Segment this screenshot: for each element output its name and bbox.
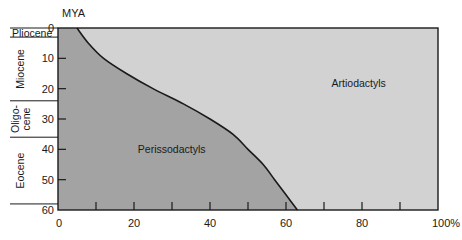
x-tick-label: 60 <box>280 217 292 229</box>
y-tick-label: 30 <box>42 113 54 125</box>
x-tick-label: 80 <box>356 217 368 229</box>
x-tick-label: 100% <box>432 217 460 229</box>
y-tick-label: 0 <box>48 22 54 34</box>
epoch-label: cene <box>20 107 32 130</box>
x-tick-label: 40 <box>204 217 216 229</box>
y-tick-label: 20 <box>42 83 54 95</box>
x-tick-label: 20 <box>128 217 140 229</box>
y-tick-label: 60 <box>42 204 54 216</box>
perissodactyls-label: Perissodactyls <box>138 143 206 155</box>
artiodactyls-label: Artiodactyls <box>332 77 386 89</box>
epoch-label: Pliocene <box>12 27 52 39</box>
y-tick-label: 10 <box>42 52 54 64</box>
y-tick-label: 50 <box>42 174 54 186</box>
y-axis-unit-label: MYA <box>62 7 86 19</box>
x-tick-label: 0 <box>56 217 62 229</box>
epoch-label: Eocene <box>14 153 26 189</box>
y-tick-label: 40 <box>42 143 54 155</box>
epoch-label: Miocene <box>14 49 26 89</box>
chart: PlioceneMioceneOligo-ceneEocene 01020304… <box>0 0 462 240</box>
